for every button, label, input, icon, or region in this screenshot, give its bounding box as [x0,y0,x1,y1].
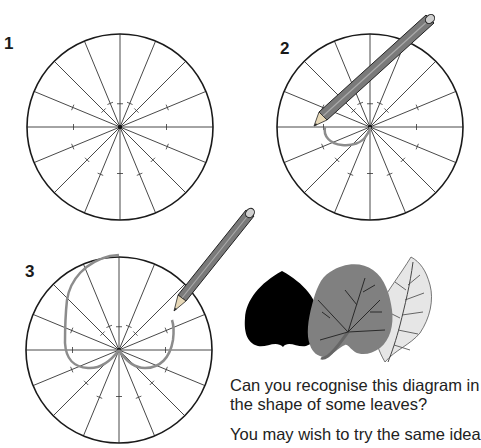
suggestion-text: You may wish to try the same idea [230,425,481,444]
question-text: Can you recognise this diagram in the sh… [230,376,479,414]
spoke-wheel-step-1 [27,34,213,220]
question-line-1: Can you recognise this diagram in [230,376,479,395]
pencil-icon-step-3 [174,207,256,311]
step-number-3: 3 [25,262,34,282]
dark-leaf-illustration [308,264,393,358]
question-line-2: the shape of some leaves? [230,395,479,414]
step-number-1: 1 [4,34,13,54]
step-number-2: 2 [280,39,289,59]
